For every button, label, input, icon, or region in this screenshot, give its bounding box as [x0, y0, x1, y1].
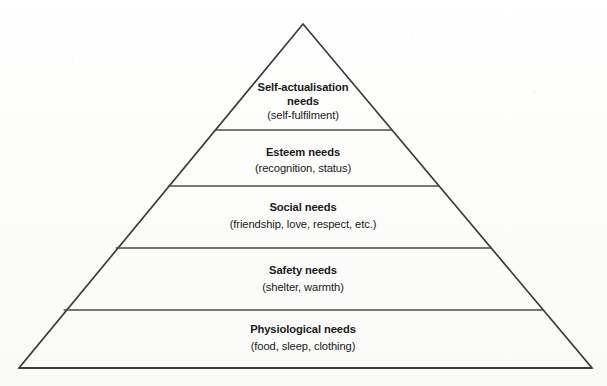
tier-4-title: Esteem needs [266, 146, 340, 158]
tier-5-subtitle: (self-fulfilment) [267, 109, 339, 121]
tier-3-subtitle: (friendship, love, respect, etc.) [230, 218, 377, 230]
tier-5-title-line2: needs [287, 95, 319, 107]
maslow-pyramid-diagram: Self-actualisation needs (self-fulfilmen… [0, 0, 607, 386]
tier-1-title: Physiological needs [250, 323, 356, 335]
tier-physiological: Physiological needs (food, sleep, clothi… [250, 323, 356, 352]
tier-esteem: Esteem needs (recognition, status) [255, 146, 352, 174]
pyramid-outline [19, 24, 592, 368]
tier-2-title: Safety needs [269, 264, 337, 276]
pyramid-graphic: Self-actualisation needs (self-fulfilmen… [0, 0, 607, 386]
tier-social: Social needs (friendship, love, respect,… [230, 201, 377, 230]
tier-5-title: Self-actualisation [258, 81, 349, 93]
tier-safety: Safety needs (shelter, warmth) [262, 264, 344, 293]
tier-1-subtitle: (food, sleep, clothing) [251, 340, 356, 352]
tier-3-title: Social needs [269, 201, 336, 213]
tier-self-actualisation: Self-actualisation needs (self-fulfilmen… [258, 81, 349, 121]
tier-4-subtitle: (recognition, status) [255, 162, 352, 174]
tier-2-subtitle: (shelter, warmth) [262, 281, 344, 293]
